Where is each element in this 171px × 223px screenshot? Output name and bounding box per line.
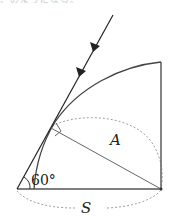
tangent-ray <box>17 15 113 189</box>
vertex-dot <box>160 188 163 191</box>
angle-label: 60° <box>31 172 56 188</box>
angle-arc <box>24 177 30 189</box>
geometry-diagram: 60° A S <box>0 0 171 223</box>
arrow-icon-2 <box>76 67 86 77</box>
curve-arc <box>34 62 161 189</box>
segment-a-label: A <box>108 131 121 149</box>
base-s-label: S <box>81 199 91 217</box>
dashed-arc-upper <box>52 118 162 189</box>
arrow-icon-1 <box>90 42 100 52</box>
segment-a <box>51 128 161 189</box>
right-angle-marker <box>55 123 61 136</box>
